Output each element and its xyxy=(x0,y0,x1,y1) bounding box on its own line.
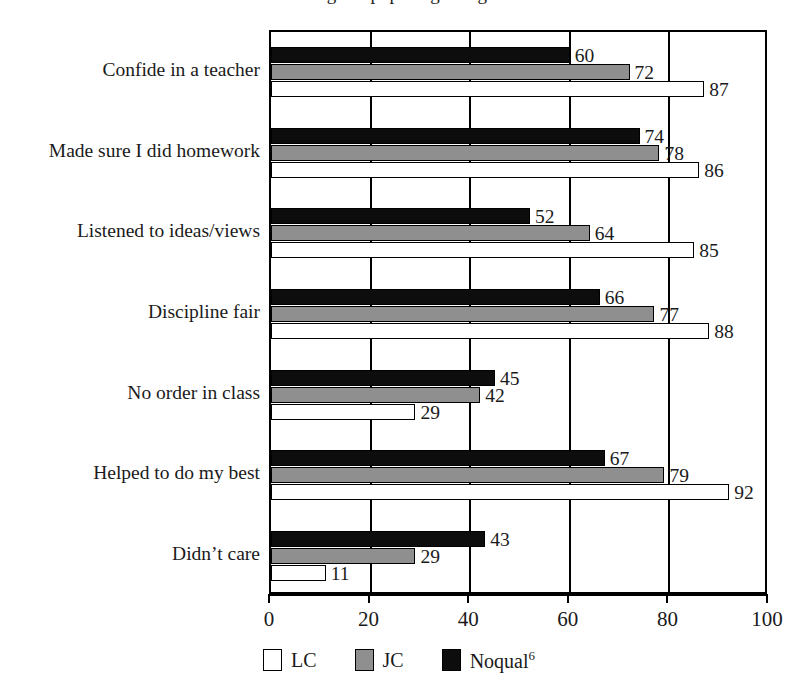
legend-footnote-marker: 6 xyxy=(529,648,536,663)
category-label: Made sure I did homework xyxy=(49,141,260,161)
legend-item-jc[interactable]: JC xyxy=(355,649,404,672)
bar-value-label: 78 xyxy=(664,144,684,164)
bar-jc xyxy=(271,387,480,403)
bar-noqual xyxy=(271,450,605,466)
legend-swatch-icon xyxy=(442,649,461,671)
chart-legend: LCJCNoqual6 xyxy=(0,648,798,673)
bar-value-label: 77 xyxy=(659,305,679,325)
category-label: Didn’t care xyxy=(172,544,260,564)
x-tick-60 xyxy=(567,594,569,603)
legend-item-lc[interactable]: LC xyxy=(263,649,317,672)
plot-area: 6072877478865264856677884542296779924329… xyxy=(269,30,767,594)
category-axis: Confide in a teacherMade sure I did home… xyxy=(0,30,269,594)
bar-jc xyxy=(271,306,654,322)
bar-noqual xyxy=(271,128,640,144)
x-tick-80 xyxy=(666,594,668,603)
bar-value-label: 72 xyxy=(635,63,655,83)
bar-value-label: 66 xyxy=(605,288,625,308)
legend-item-noqual[interactable]: Noqual6 xyxy=(442,648,535,673)
bar-lc xyxy=(271,404,415,420)
legend-swatch-icon xyxy=(263,649,282,671)
bar-value-label: 87 xyxy=(709,80,729,100)
x-tick-40 xyxy=(467,594,469,603)
bar-value-label: 88 xyxy=(714,322,734,342)
bar-value-label: 85 xyxy=(699,241,719,261)
bar-value-label: 43 xyxy=(490,530,510,550)
bar-jc xyxy=(271,467,664,483)
bar-noqual xyxy=(271,47,570,63)
bar-lc xyxy=(271,81,704,97)
legend-label: LC xyxy=(291,649,317,672)
category-label: Helped to do my best xyxy=(93,463,260,483)
bar-jc xyxy=(271,548,415,564)
bar-value-label: 29 xyxy=(420,403,440,423)
x-tick-0 xyxy=(268,594,270,603)
bar-jc xyxy=(271,145,659,161)
x-tick-label: 80 xyxy=(657,607,678,632)
x-axis: 020406080100 xyxy=(269,594,767,596)
bar-value-label: 92 xyxy=(734,483,754,503)
chart-title-fragment: Figure: pupils agreeing xyxy=(0,0,798,5)
bar-value-label: 52 xyxy=(535,207,555,227)
bar-chart: Figure: pupils agreeing Confide in a tea… xyxy=(0,0,798,696)
category-label: No order in class xyxy=(127,383,260,403)
bar-value-label: 86 xyxy=(704,161,724,181)
bar-noqual xyxy=(271,289,600,305)
bar-value-label: 42 xyxy=(485,386,505,406)
bar-value-label: 29 xyxy=(420,547,440,567)
bar-value-label: 11 xyxy=(331,564,350,584)
category-label: Discipline fair xyxy=(148,302,260,322)
bar-value-label: 64 xyxy=(595,224,615,244)
legend-swatch-icon xyxy=(355,649,374,671)
category-label: Listened to ideas/views xyxy=(77,221,260,241)
bar-lc xyxy=(271,565,326,581)
x-tick-label: 60 xyxy=(557,607,578,632)
x-tick-20 xyxy=(368,594,370,603)
x-tick-100 xyxy=(766,594,768,603)
x-tick-label: 40 xyxy=(458,607,479,632)
bar-lc xyxy=(271,242,694,258)
bar-jc xyxy=(271,64,630,80)
bar-noqual xyxy=(271,370,495,386)
bar-value-label: 60 xyxy=(575,46,595,66)
bar-lc xyxy=(271,162,699,178)
x-tick-label: 100 xyxy=(751,607,783,632)
bar-noqual xyxy=(271,531,485,547)
legend-label: Noqual6 xyxy=(470,648,535,673)
x-tick-label: 0 xyxy=(264,607,275,632)
bar-lc xyxy=(271,323,709,339)
bar-value-label: 74 xyxy=(645,127,665,147)
bar-noqual xyxy=(271,208,530,224)
bar-value-label: 79 xyxy=(669,466,689,486)
bar-jc xyxy=(271,225,590,241)
bar-lc xyxy=(271,484,729,500)
category-label: Confide in a teacher xyxy=(102,60,260,80)
bar-value-label: 67 xyxy=(610,449,630,469)
legend-label: JC xyxy=(383,649,404,672)
x-tick-label: 20 xyxy=(358,607,379,632)
